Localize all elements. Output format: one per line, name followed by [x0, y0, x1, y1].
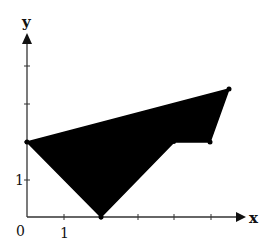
y-axis-arrow-icon: [22, 33, 32, 44]
origin-label: 0: [16, 223, 25, 239]
coordinate-plane: x y 0 1 1: [0, 0, 268, 249]
y-axis-label: y: [21, 13, 32, 31]
x-tick-label-1: 1: [60, 225, 69, 241]
shaded-polygon: [27, 89, 229, 217]
x-axis-arrow-icon: [236, 212, 246, 222]
x-axis-label: x: [249, 209, 259, 227]
y-tick-label-1: 1: [15, 172, 24, 188]
